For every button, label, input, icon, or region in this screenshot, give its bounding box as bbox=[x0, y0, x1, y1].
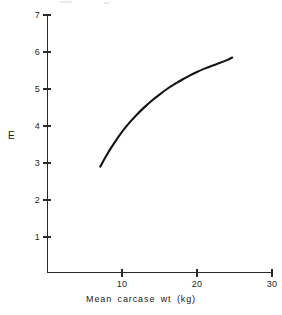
data-curve-series-1 bbox=[100, 58, 232, 167]
y-tick-label-2: 2 bbox=[22, 195, 40, 205]
x-tick-label-10: 10 bbox=[112, 279, 132, 289]
y-axis-label: E bbox=[8, 130, 15, 141]
chart-figure: 7 6 5 4 3 2 1 10 20 30 E Mean carcase wt… bbox=[0, 0, 282, 315]
plot-canvas bbox=[0, 0, 282, 315]
x-axis-title: Mean carcase wt (kg) bbox=[0, 294, 282, 304]
y-tick-label-3: 3 bbox=[22, 158, 40, 168]
x-tick-label-30: 30 bbox=[262, 279, 282, 289]
y-tick-label-1: 1 bbox=[22, 232, 40, 242]
y-tick-label-7: 7 bbox=[22, 10, 40, 20]
y-tick-label-5: 5 bbox=[22, 84, 40, 94]
x-tick-label-20: 20 bbox=[187, 279, 207, 289]
y-tick-label-6: 6 bbox=[22, 47, 40, 57]
y-tick-label-4: 4 bbox=[22, 121, 40, 131]
